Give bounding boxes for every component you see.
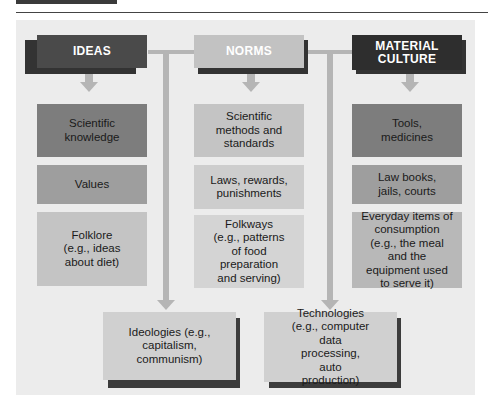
- connector-ideologies-line: [163, 50, 169, 300]
- norms-header: NORMS: [194, 35, 304, 68]
- material-culture-header: MATERIAL CULTURE: [352, 35, 462, 70]
- ideas-header: IDEAS: [37, 35, 147, 68]
- ideas-item-folklore: Folklore (e.g., ideas about diet): [37, 212, 147, 286]
- material-item-law-books: Law books, jails, courts: [352, 165, 462, 204]
- norms-header-label: NORMS: [226, 45, 272, 58]
- arrow-material-icon: [401, 82, 419, 92]
- norms-item-folkways: Folkways (e.g., patterns of food prepara…: [194, 215, 304, 288]
- technologies-box: Technologies (e.g., computer data proces…: [264, 312, 397, 382]
- arrow-ideologies-icon: [157, 300, 175, 310]
- material-item-everyday-items: Everyday items of consumption (e.g., the…: [352, 212, 462, 288]
- ideas-item-scientific-knowledge: Scientific knowledge: [37, 104, 147, 157]
- material-item-tools: Tools, medicines: [352, 104, 462, 157]
- ideologies-box: Ideologies (e.g., capitalism, communism): [103, 312, 236, 380]
- norms-item-scientific-methods: Scientific methods and standards: [194, 104, 304, 157]
- top-bar: [16, 0, 117, 4]
- connector-technologies-line: [327, 50, 333, 300]
- arrow-ideas-icon: [80, 82, 98, 92]
- connector-ideas-norms: [148, 50, 198, 54]
- arrow-norms-icon: [242, 82, 260, 92]
- header-rule: [16, 12, 488, 13]
- ideas-header-label: IDEAS: [73, 45, 111, 58]
- norms-item-laws: Laws, rewards, punishments: [194, 165, 304, 209]
- material-header-label: MATERIAL CULTURE: [372, 40, 442, 66]
- ideas-item-values: Values: [37, 165, 147, 204]
